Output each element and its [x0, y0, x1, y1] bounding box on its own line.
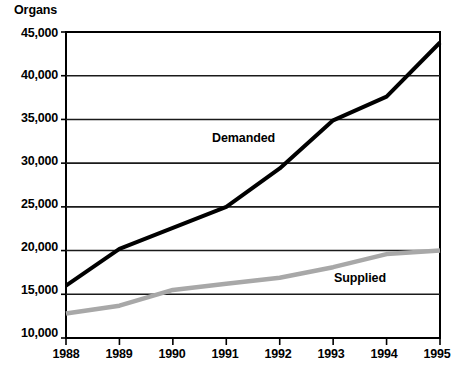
- x-axis-tick-label: 1993: [308, 347, 354, 361]
- organs-supply-demand-chart: Organs 45,000 40,000 35,000 30,000 25,00…: [0, 0, 453, 376]
- plot-frame: [66, 32, 440, 338]
- x-axis-tick-label: 1988: [43, 347, 89, 361]
- x-axis-tick-label: 1994: [361, 347, 407, 361]
- plot-area-svg: [0, 0, 453, 376]
- x-axis-tick-label: 1991: [202, 347, 248, 361]
- series-annotation-demanded: Demanded: [212, 131, 275, 145]
- x-axis-tick-label: 1990: [149, 347, 195, 361]
- x-axis-tick-label: 1989: [96, 347, 142, 361]
- x-tick-group: [66, 338, 440, 345]
- series-annotation-supplied: Supplied: [334, 271, 386, 285]
- x-axis-tick-label: 1992: [255, 347, 301, 361]
- x-axis-tick-label: 1995: [414, 347, 453, 361]
